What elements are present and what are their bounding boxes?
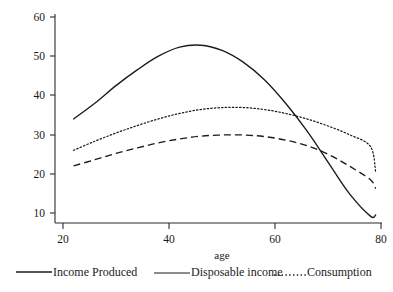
axis-group: [50, 14, 382, 229]
legend-label-disposable-income: Disposable income: [191, 265, 283, 279]
y-tick-label-60: 60: [34, 11, 46, 23]
y-tick-labels: 60 50 40 30 20 10: [34, 11, 46, 219]
x-tick-label-40: 40: [163, 233, 175, 245]
y-tick-label-50: 50: [34, 50, 46, 62]
x-tick-labels: 20 40 60 80: [57, 233, 387, 245]
y-tick-label-30: 30: [34, 129, 46, 141]
x-tick-label-60: 60: [269, 233, 281, 245]
series-disposable-income: [74, 135, 376, 189]
x-tick-label-20: 20: [57, 233, 69, 245]
series-consumption: [74, 107, 376, 172]
series-group: [74, 45, 376, 217]
legend-label-consumption: Consumption: [307, 265, 372, 279]
y-tick-label-10: 10: [34, 207, 46, 219]
chart-container: 60 50 40 30 20 10 20 40 60 80 age Income…: [0, 0, 393, 292]
legend-label-income-produced: Income Produced: [53, 265, 137, 279]
chart-legend: Income Produced Disposable income Consum…: [16, 265, 372, 279]
x-axis-title: age: [214, 249, 229, 261]
y-tick-label-20: 20: [34, 168, 46, 180]
series-income-produced: [74, 45, 376, 217]
y-tick-label-40: 40: [34, 89, 46, 101]
line-chart-figure: 60 50 40 30 20 10 20 40 60 80 age Income…: [0, 0, 393, 292]
x-tick-label-80: 80: [375, 233, 387, 245]
